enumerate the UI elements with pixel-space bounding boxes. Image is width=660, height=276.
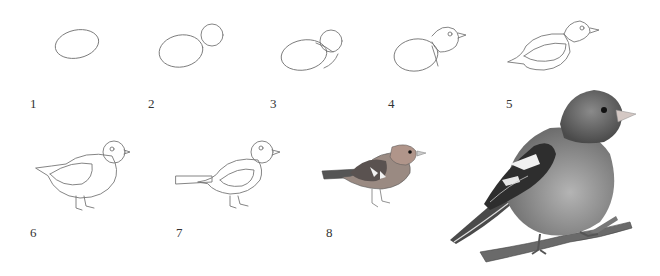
step-6-sketch <box>32 140 132 212</box>
step-1-sketch <box>50 28 110 68</box>
step-6-label: 6 <box>30 225 37 241</box>
final-bird-illustration <box>440 84 660 276</box>
step-2-label: 2 <box>148 96 155 112</box>
beak <box>616 110 636 122</box>
eye <box>601 107 607 113</box>
step-5-sketch <box>504 16 600 74</box>
step-4-sketch <box>392 22 472 74</box>
step-1-label: 1 <box>30 96 37 112</box>
step-7-label: 7 <box>176 225 183 241</box>
step-3-label: 3 <box>270 96 277 112</box>
step-8-illustration <box>320 143 430 213</box>
step-4-label: 4 <box>388 96 395 112</box>
step-2-sketch <box>155 22 235 74</box>
step-3-sketch <box>276 24 356 76</box>
step-8-label: 8 <box>326 225 333 241</box>
step-7-sketch <box>174 140 284 212</box>
